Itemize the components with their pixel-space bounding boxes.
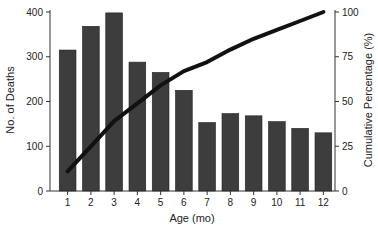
bar-3: [106, 13, 123, 191]
bar-4: [129, 62, 146, 191]
y-tick-label: 200: [26, 96, 43, 107]
y-axis-title: No. of Deaths: [4, 66, 16, 134]
x-tick-label: 9: [251, 197, 257, 208]
x-tick-label: 1: [65, 197, 71, 208]
y-tick-label: 100: [26, 141, 43, 152]
y-tick-label: 400: [26, 7, 43, 18]
y2-tick-label: 100: [342, 7, 359, 18]
bar-2: [83, 26, 100, 191]
y2-tick-label: 75: [342, 51, 354, 62]
x-tick-label: 12: [318, 197, 330, 208]
x-tick-label: 4: [135, 197, 141, 208]
bar-10: [269, 122, 286, 191]
bar-8: [222, 114, 239, 191]
chart: 0100200300400 0255075100 123456789101112…: [0, 0, 378, 232]
bar-9: [245, 116, 262, 191]
bar-11: [292, 128, 309, 191]
x-tick-label: 7: [204, 197, 210, 208]
x-tick-label: 5: [158, 197, 164, 208]
x-axis-title: Age (mo): [169, 212, 214, 224]
bar-6: [176, 90, 193, 191]
y2-tick-label: 0: [342, 186, 348, 197]
bar-12: [315, 133, 332, 191]
bar-7: [199, 123, 216, 191]
x-tick-label: 11: [295, 197, 306, 208]
y-tick-label: 0: [37, 186, 43, 197]
y2-tick-label: 50: [342, 96, 354, 107]
x-tick-label: 8: [228, 197, 234, 208]
x-tick-label: 6: [181, 197, 187, 208]
y2-axis-title: Cumulative Percentage (%): [362, 33, 374, 168]
y2-tick-label: 25: [342, 141, 354, 152]
x-tick-label: 10: [271, 197, 283, 208]
x-tick-label: 2: [88, 197, 94, 208]
y-tick-label: 300: [26, 51, 43, 62]
x-tick-label: 3: [111, 197, 117, 208]
